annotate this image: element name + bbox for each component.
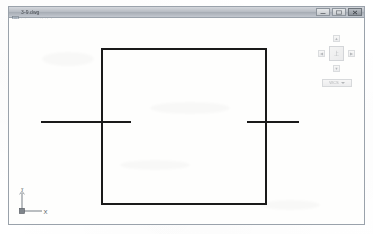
- close-button[interactable]: [348, 8, 362, 16]
- drawing-geometry: [9, 19, 364, 224]
- ucs-x-label: X: [44, 209, 48, 215]
- ucs-y-label: Y: [20, 188, 24, 192]
- view-cube-arrow-up-icon[interactable]: ▲: [333, 35, 340, 42]
- cad-application-window: 3-9.dwg [-]: [8, 6, 365, 225]
- view-cube-face[interactable]: 上: [329, 46, 344, 61]
- geometry-rectangle: [102, 49, 266, 204]
- chevron-down-icon: [341, 82, 345, 84]
- title-bar[interactable]: 3-9.dwg: [9, 7, 364, 18]
- view-cube-arrow-left-icon[interactable]: ◀: [318, 50, 325, 57]
- dwg-file-icon: [12, 9, 19, 16]
- ucs-dropdown-label: WCS: [329, 81, 338, 85]
- view-cube-arrow-down-icon[interactable]: ▼: [333, 65, 340, 72]
- view-cube-control[interactable]: ▲ ◀ ▶ ▼ 上 WCS: [314, 35, 360, 93]
- screenshot-root: 3-9.dwg [-]: [0, 0, 373, 234]
- window-title: 3-9.dwg: [21, 10, 40, 15]
- maximize-button[interactable]: [332, 8, 346, 16]
- ucs-icon[interactable]: Y X: [17, 188, 51, 218]
- drawing-canvas[interactable]: Y X ▲ ◀ ▶ ▼ 上 WCS: [9, 19, 364, 224]
- view-cube-arrow-right-icon[interactable]: ▶: [348, 50, 355, 57]
- window-controls: [316, 8, 362, 16]
- ucs-dropdown[interactable]: WCS: [322, 79, 352, 87]
- minimize-button[interactable]: [316, 8, 330, 16]
- view-cube-face-label: 上: [334, 51, 339, 56]
